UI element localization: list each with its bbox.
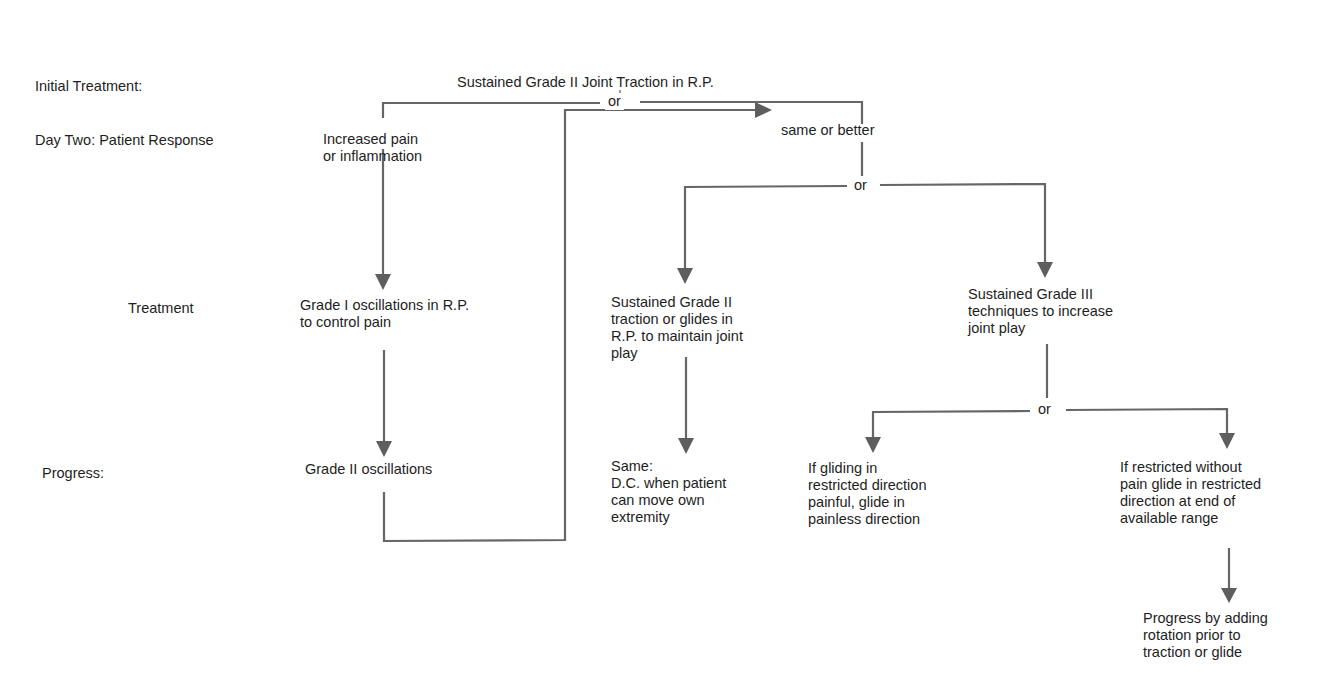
node-increased-pain: Increased pain or inflammation bbox=[323, 131, 422, 165]
node-gliding-painful: If gliding in restricted direction painf… bbox=[808, 460, 926, 528]
node-same-dc: Same: D.C. when patient can move own ext… bbox=[611, 458, 726, 526]
row-label-treatment: Treatment bbox=[128, 300, 194, 317]
or-connector-low: or bbox=[1035, 401, 1054, 418]
row-label-progress: Progress: bbox=[42, 465, 104, 482]
branch-right-mid bbox=[880, 184, 1045, 266]
or-connector-mid: or bbox=[851, 177, 870, 194]
branch-left-mid bbox=[685, 186, 847, 270]
row-label-initial: Initial Treatment: bbox=[35, 78, 142, 95]
row-label-day-two: Day Two: Patient Response bbox=[35, 132, 214, 149]
arrow-down-icon bbox=[376, 441, 392, 457]
node-restricted-without-pain: If restricted without pain glide in rest… bbox=[1120, 459, 1261, 527]
arrow-down-icon bbox=[375, 274, 391, 290]
node-root: Sustained Grade II Joint Traction in R.P… bbox=[457, 74, 714, 91]
node-same-or-better: same or better bbox=[781, 122, 875, 139]
node-grade1-oscillations: Grade I oscillations in R.P. to control … bbox=[300, 297, 469, 331]
arrow-down-icon bbox=[865, 437, 881, 453]
branch-right-top bbox=[640, 102, 862, 124]
node-progress-rotation: Progress by adding rotation prior to tra… bbox=[1143, 610, 1268, 661]
branch-left-low bbox=[873, 411, 1030, 438]
node-sustained-grade2: Sustained Grade II traction or glides in… bbox=[611, 294, 743, 362]
arrow-down-icon bbox=[678, 438, 694, 454]
arrow-down-icon bbox=[1221, 588, 1237, 603]
node-sustained-grade3: Sustained Grade III techniques to increa… bbox=[968, 286, 1113, 337]
or-connector-top: or bbox=[605, 93, 624, 110]
node-grade2-oscillations: Grade II oscillations bbox=[305, 461, 432, 478]
arrow-down-icon bbox=[677, 268, 693, 284]
arrow-right-icon bbox=[755, 102, 772, 118]
branch-right-low bbox=[1066, 409, 1227, 434]
arrow-down-icon bbox=[1219, 433, 1235, 449]
arrow-down-icon bbox=[1037, 262, 1053, 278]
